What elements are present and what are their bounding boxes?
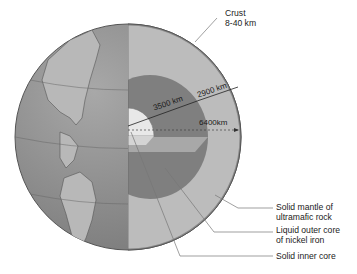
earth-structure-diagram: Crust 8-40 km Solid mantle of ultramafic… bbox=[0, 0, 357, 274]
mantle-label: Solid mantle of ultramafic rock bbox=[276, 202, 333, 222]
outer-core-label: Liquid outer core of nickel iron bbox=[276, 225, 340, 245]
crust-label: Crust 8-40 km bbox=[225, 8, 256, 28]
earth-radius-label: 6400km bbox=[199, 118, 227, 127]
inner-core-label: Solid inner core bbox=[276, 251, 336, 261]
